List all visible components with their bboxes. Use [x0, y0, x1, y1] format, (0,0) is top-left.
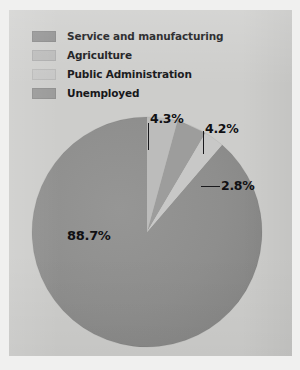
- pie-label-service-and-manufacturing: 88.7%: [67, 229, 111, 242]
- legend-label-public-administration: Public Administration: [67, 69, 192, 80]
- legend-item-public-administration[interactable]: Public Administration: [32, 65, 262, 83]
- leader-line-agriculture: [148, 123, 149, 150]
- leader-line-public-administration: [201, 186, 220, 187]
- chart-legend: Service and manufacturing Agriculture Pu…: [32, 27, 262, 103]
- legend-label-service-and-manufacturing: Service and manufacturing: [67, 31, 223, 42]
- pie-chart-figure: 4.3% 4.2% 2.8% 88.7% Service and manufac…: [0, 0, 300, 370]
- legend-item-agriculture[interactable]: Agriculture: [32, 46, 262, 64]
- chart-panel: 4.3% 4.2% 2.8% 88.7% Service and manufac…: [9, 10, 292, 356]
- legend-swatch-service: [32, 31, 56, 42]
- pie-label-agriculture: 4.3%: [150, 113, 183, 126]
- legend-label-agriculture: Agriculture: [67, 50, 132, 61]
- pie-label-public-administration: 2.8%: [221, 180, 254, 193]
- legend-swatch-unemployed: [32, 88, 56, 99]
- legend-swatch-public-administration: [32, 69, 56, 80]
- legend-item-service-and-manufacturing[interactable]: Service and manufacturing: [32, 27, 262, 45]
- legend-label-unemployed: Unemployed: [67, 88, 139, 99]
- legend-item-unemployed[interactable]: Unemployed: [32, 84, 262, 102]
- pie-label-unemployed: 4.2%: [205, 123, 238, 136]
- legend-swatch-agriculture: [32, 50, 56, 61]
